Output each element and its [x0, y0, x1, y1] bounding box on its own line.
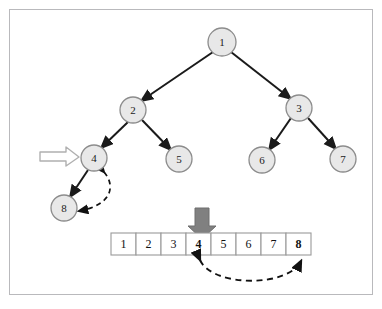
- tree-node-7[interactable]: 7: [330, 146, 356, 172]
- array-cell-7[interactable]: 8: [286, 233, 311, 255]
- tree-node-8-label: 8: [61, 202, 67, 214]
- array-cell-6-label: 7: [271, 237, 277, 251]
- array-cell-1-label: 2: [146, 237, 152, 251]
- tree-edges: [70, 52, 336, 197]
- figure-canvas: 1 2 3 4 5 6 7: [0, 0, 382, 309]
- tree-node-1-label: 1: [219, 36, 225, 48]
- tree-node-1[interactable]: 1: [208, 28, 236, 56]
- array-cell-2-label: 3: [171, 237, 177, 251]
- tree-node-3[interactable]: 3: [286, 95, 312, 121]
- array-cell-3[interactable]: 4: [186, 233, 211, 255]
- array-cell-3-label: 4: [196, 237, 202, 251]
- tree-edge-1-3: [231, 52, 291, 99]
- array-cell-7-label: 8: [296, 237, 302, 251]
- tree-node-3-label: 3: [296, 102, 302, 114]
- array-cell-5[interactable]: 6: [236, 233, 261, 255]
- array-cell-0[interactable]: 1: [111, 233, 136, 255]
- tree-node-2[interactable]: 2: [120, 97, 146, 123]
- figure-root: 1 2 3 4 5 6 7: [0, 0, 382, 309]
- array-row: 1 2 3 4 5 6 7: [111, 233, 311, 255]
- tree-node-5[interactable]: 5: [166, 146, 192, 172]
- tree-edge-4-8: [70, 170, 88, 197]
- tree-nodes: 1 2 3 4 5 6 7: [51, 28, 356, 221]
- tree-edge-3-6: [269, 118, 291, 150]
- tree-node-6-label: 6: [259, 154, 265, 166]
- array-cell-0-label: 1: [121, 237, 127, 251]
- tree-node-4-label: 4: [91, 152, 97, 164]
- array-cell-1[interactable]: 2: [136, 233, 161, 255]
- array-cell-5-label: 6: [246, 237, 252, 251]
- array-cell-6[interactable]: 7: [261, 233, 286, 255]
- tree-edge-3-7: [308, 118, 336, 149]
- tree-node-7-label: 7: [340, 153, 346, 165]
- array-swap-dashed-arrow: [200, 260, 301, 281]
- tree-node-4[interactable]: 4: [81, 145, 107, 171]
- array-cell-4-label: 5: [221, 237, 227, 251]
- array-cell-4[interactable]: 5: [211, 233, 236, 255]
- tree-node-8[interactable]: 8: [51, 195, 77, 221]
- hollow-pointer-arrow: [40, 147, 79, 166]
- tree-node-5-label: 5: [176, 153, 182, 165]
- tree-edge-1-2: [141, 52, 213, 101]
- tree-node-2-label: 2: [130, 104, 136, 116]
- array-cell-2[interactable]: 3: [161, 233, 186, 255]
- tree-edge-2-4: [101, 122, 128, 148]
- tree-node-6[interactable]: 6: [249, 147, 275, 173]
- tree-edge-2-5: [142, 120, 171, 150]
